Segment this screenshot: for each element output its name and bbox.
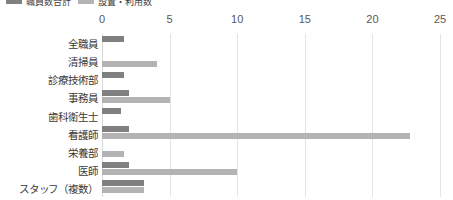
bar [102, 72, 124, 78]
x-tick-label: 0 [99, 13, 105, 25]
legend-item-series-1: 設置・利用数 [78, 0, 152, 8]
bar-group [102, 125, 440, 143]
y-category-label: スタッフ（複数） [0, 181, 98, 196]
bar [102, 36, 124, 42]
y-category-label: 清掃員 [0, 54, 98, 69]
bar [102, 180, 144, 186]
bar [102, 61, 157, 67]
y-category-label: 事務員 [0, 90, 98, 105]
y-category-label: 歯科衛生士 [0, 109, 98, 124]
y-category-label: 全職員 [0, 36, 98, 51]
bar [102, 151, 124, 157]
x-tick-label: 25 [434, 13, 446, 25]
bar-group [102, 52, 440, 70]
bar-group [102, 161, 440, 179]
plot-area [102, 34, 440, 197]
legend-label-series-1: 設置・利用数 [98, 0, 152, 8]
bar [102, 187, 144, 193]
bar-group [102, 143, 440, 161]
bar-rows [102, 34, 440, 197]
bar [102, 169, 237, 175]
bar [102, 97, 170, 103]
legend-label-series-0: 職員数合計 [26, 0, 71, 8]
bar-group [102, 179, 440, 197]
bar-group [102, 34, 440, 52]
y-category-label: 看護師 [0, 127, 98, 142]
x-tick-label: 15 [299, 13, 311, 25]
bar [102, 126, 129, 132]
bar [102, 133, 410, 139]
legend-item-series-0: 職員数合計 [6, 0, 71, 8]
bar-group [102, 70, 440, 88]
x-tick-label: 20 [366, 13, 378, 25]
x-tick-label: 10 [231, 13, 243, 25]
bar-chart: 職員数合計 設置・利用数 0510152025 全職員清掃員診療技術部事務員歯科… [0, 0, 453, 200]
bar [102, 90, 129, 96]
bar-group [102, 106, 440, 124]
y-category-label: 診療技術部 [0, 72, 98, 87]
x-tick-label: 5 [167, 13, 173, 25]
legend-swatch-series-1 [78, 0, 94, 4]
y-axis-category-labels: 全職員清掃員診療技術部事務員歯科衛生士看護師栄養部医師スタッフ（複数） [0, 34, 98, 197]
legend-swatch-series-0 [6, 0, 22, 4]
gridline [440, 34, 441, 197]
bar-group [102, 88, 440, 106]
x-axis-tick-labels: 0510152025 [0, 13, 453, 31]
bar [102, 162, 129, 168]
y-category-label: 医師 [0, 163, 98, 178]
y-category-label: 栄養部 [0, 145, 98, 160]
bar [102, 108, 121, 114]
chart-legend: 職員数合計 設置・利用数 [0, 0, 453, 9]
